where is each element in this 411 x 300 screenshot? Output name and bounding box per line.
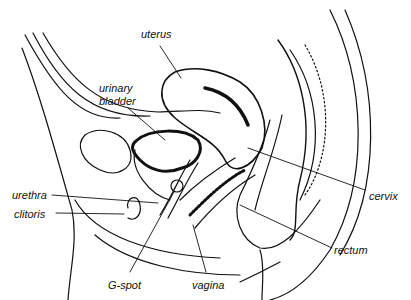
label-uterus: uterus — [141, 28, 172, 40]
label-vagina: vagina — [192, 279, 224, 291]
label-cervix: cervix — [369, 190, 398, 202]
label-urinary-bladder-line1: urinary — [99, 82, 133, 94]
label-urinary-bladder-line2: bladder — [99, 95, 136, 107]
label-g-spot: G-spot — [108, 279, 141, 291]
label-urethra: urethra — [12, 189, 47, 201]
label-clitoris: clitoris — [14, 208, 45, 220]
anatomy-diagram: uterus urinary bladder urethra clitoris … — [0, 0, 411, 300]
label-rectum: rectum — [334, 244, 368, 256]
